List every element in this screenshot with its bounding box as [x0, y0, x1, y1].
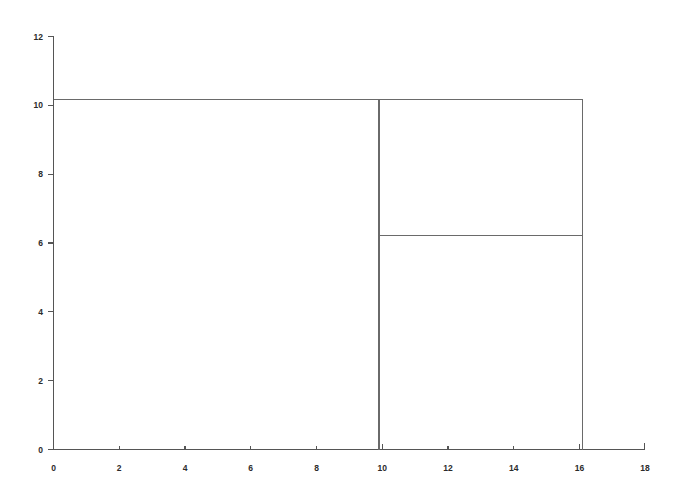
y-tick-label-2: 2 [38, 376, 43, 386]
y-tick-label-6: 6 [38, 238, 43, 248]
x-tick-label-14: 14 [509, 463, 519, 473]
rectangle-partition-group [54, 100, 584, 450]
x-tick-label-8: 8 [314, 463, 319, 473]
y-tick-label-8: 8 [38, 169, 43, 179]
x-tick-label-12: 12 [443, 463, 453, 473]
y-tick-group [48, 37, 54, 450]
rectangle-partition-plot: 0 2 4 6 8 10 12 0 2 4 6 8 10 [0, 0, 675, 498]
x-tick-labels: 0 2 4 6 8 10 12 14 16 18 [51, 463, 650, 473]
y-tick-label-4: 4 [38, 307, 43, 317]
axes-group [48, 36, 645, 450]
x-tick-label-18: 18 [640, 463, 650, 473]
y-tick-labels: 0 2 4 6 8 10 12 [34, 32, 44, 455]
y-tick-label-12: 12 [34, 32, 44, 42]
x-tick-label-16: 16 [575, 463, 585, 473]
y-tick-label-10: 10 [34, 100, 44, 110]
y-tick-label-0: 0 [38, 445, 43, 455]
x-tick-group [54, 444, 645, 450]
x-tick-label-6: 6 [248, 463, 253, 473]
figure-root: 0 2 4 6 8 10 12 0 2 4 6 8 10 [0, 0, 675, 498]
x-tick-label-10: 10 [377, 463, 387, 473]
x-tick-label-2: 2 [117, 463, 122, 473]
x-tick-label-0: 0 [51, 463, 56, 473]
x-tick-label-4: 4 [183, 463, 188, 473]
